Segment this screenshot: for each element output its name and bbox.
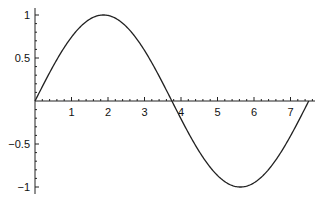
sine-plot: 123456710.5−0.5−1 — [0, 0, 327, 201]
x-tick-label: 1 — [68, 106, 74, 118]
y-tick-label: −0.5 — [8, 138, 30, 150]
x-tick-label: 5 — [214, 106, 220, 118]
y-tick-label: 0.5 — [15, 52, 30, 64]
y-tick-label: 1 — [24, 9, 30, 21]
x-tick-label: 2 — [105, 106, 111, 118]
x-tick-label: 6 — [251, 106, 257, 118]
x-tick-label: 4 — [178, 106, 184, 118]
y-tick-label: −1 — [17, 181, 30, 193]
x-tick-label: 3 — [141, 106, 147, 118]
x-tick-label: 7 — [287, 106, 293, 118]
axes — [35, 8, 315, 194]
